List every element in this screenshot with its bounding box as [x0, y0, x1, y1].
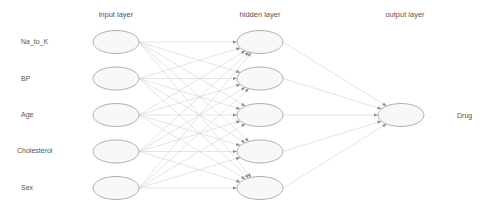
edge-input-3-to-hidden-1 — [139, 87, 245, 151]
input-node-1 — [93, 67, 139, 90]
arrowhead — [233, 77, 237, 80]
arrowhead — [241, 87, 245, 90]
edge-input-0-to-hidden-2 — [139, 42, 245, 106]
input-label-cholesterol: Cholesterol — [17, 147, 53, 154]
edge-input-4-to-hidden-1 — [139, 89, 249, 188]
edge-hidden-4-to-output-0 — [283, 124, 387, 188]
edge-input-3-to-hidden-0 — [139, 52, 249, 151]
input-label-na-to-k: Na_to_K — [21, 38, 49, 46]
edge-input-2-to-hidden-0 — [139, 51, 245, 115]
edge-input-0-to-hidden-3 — [139, 42, 249, 141]
arrowhead — [233, 186, 237, 189]
hidden-node-2 — [237, 104, 283, 127]
input-layer-title: input layer — [99, 10, 134, 19]
arrowhead — [241, 103, 245, 106]
arrowhead — [241, 139, 245, 142]
arrowhead — [233, 40, 237, 43]
hidden-layer-title: hidden layer — [240, 10, 281, 19]
output-label-drug: Drug — [457, 112, 472, 120]
hidden-node-1 — [237, 67, 283, 90]
arrowhead — [241, 176, 245, 179]
arrowhead — [233, 150, 237, 153]
input-node-0 — [93, 31, 139, 54]
hidden-node-0 — [237, 31, 283, 54]
input-node-3 — [93, 140, 139, 163]
input-label-bp: BP — [21, 75, 31, 82]
arrowhead — [382, 124, 386, 127]
input-node-2 — [93, 104, 139, 127]
hidden-node-3 — [237, 140, 283, 163]
edge-input-2-to-hidden-4 — [139, 115, 245, 179]
arrowhead — [382, 103, 386, 106]
edge-input-1-to-hidden-4 — [139, 79, 249, 178]
arrowhead — [241, 51, 245, 54]
edge-input-0-to-hidden-1 — [139, 42, 240, 73]
arrowhead — [241, 124, 245, 127]
output-layer-title: output layer — [385, 10, 425, 19]
neural-network-diagram: input layer hidden layer output layer Na… — [0, 0, 497, 212]
edge-input-4-to-hidden-2 — [139, 124, 245, 188]
edge-input-4-to-hidden-3 — [139, 157, 240, 188]
input-label-age: Age — [21, 111, 34, 119]
edge-input-1-to-hidden-3 — [139, 79, 245, 143]
hidden-node-4 — [237, 177, 283, 200]
input-label-sex: Sex — [21, 184, 34, 191]
arrowhead — [374, 113, 378, 116]
output-node-0 — [378, 104, 424, 127]
edge-hidden-0-to-output-0 — [283, 42, 387, 106]
input-node-4 — [93, 177, 139, 200]
arrowhead — [233, 113, 237, 116]
